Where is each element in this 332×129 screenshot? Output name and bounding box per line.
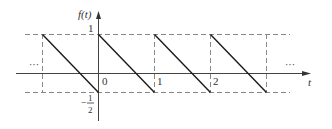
x-axis-label: t: [308, 76, 312, 88]
y-tick-max-label: 1: [88, 22, 94, 34]
y-axis-label: f(t): [78, 8, 92, 21]
y-tick-min-sign: −: [81, 97, 87, 108]
x-tick-2-label: 2: [213, 75, 219, 87]
x-tick-0-label: 0: [102, 75, 108, 87]
y-tick-min-numerator: 1: [88, 93, 93, 103]
y-axis-arrow-icon: [96, 11, 101, 19]
x-tick-1-label: 1: [157, 75, 163, 87]
segment-t2-to-3: [211, 35, 267, 93]
y-tick-min-denominator: 2: [88, 105, 93, 115]
segment-t-1-to-0: [43, 35, 99, 93]
ellipsis-left: ···: [29, 59, 39, 70]
sawtooth-diagram: f(t) 1 − 1 2 0 1 2 t ··· ···: [0, 0, 332, 129]
ellipsis-right: ···: [285, 59, 295, 70]
segment-t1-to-2: [155, 35, 211, 93]
axes: [16, 16, 304, 121]
